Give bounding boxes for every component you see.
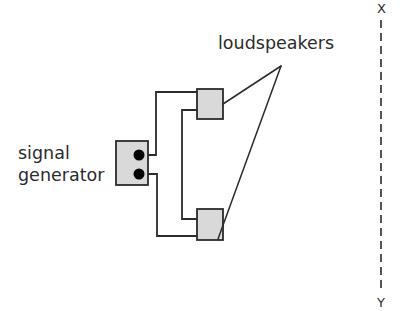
- diagram-canvas: loudspeakers signal generator X Y: [0, 0, 405, 311]
- axis-label-y: Y: [376, 295, 385, 310]
- signal-generator: [116, 141, 148, 185]
- axis-label-x: X: [377, 1, 386, 16]
- loudspeaker-top-box: [197, 89, 223, 119]
- wire-top-speaker-to-bottom-speaker: [182, 110, 197, 219]
- signal-generator-label-line1: signal: [18, 143, 70, 163]
- physics-schematic-svg: loudspeakers signal generator X Y: [0, 0, 405, 311]
- terminal-top-dot: [134, 150, 145, 161]
- wire-bottom-terminal-to-bottom-speaker: [148, 174, 197, 236]
- loudspeakers-label: loudspeakers: [218, 33, 334, 53]
- wiring-group: [148, 92, 197, 236]
- leader-lines-group: [218, 66, 281, 239]
- leader-to-bottom-speaker: [218, 66, 281, 239]
- signal-generator-label-line2: generator: [18, 165, 105, 185]
- leader-to-top-speaker: [223, 66, 281, 104]
- terminal-bottom-dot: [134, 169, 145, 180]
- wire-top-terminal-to-top-speaker: [148, 92, 197, 155]
- signal-generator-body: [116, 141, 148, 185]
